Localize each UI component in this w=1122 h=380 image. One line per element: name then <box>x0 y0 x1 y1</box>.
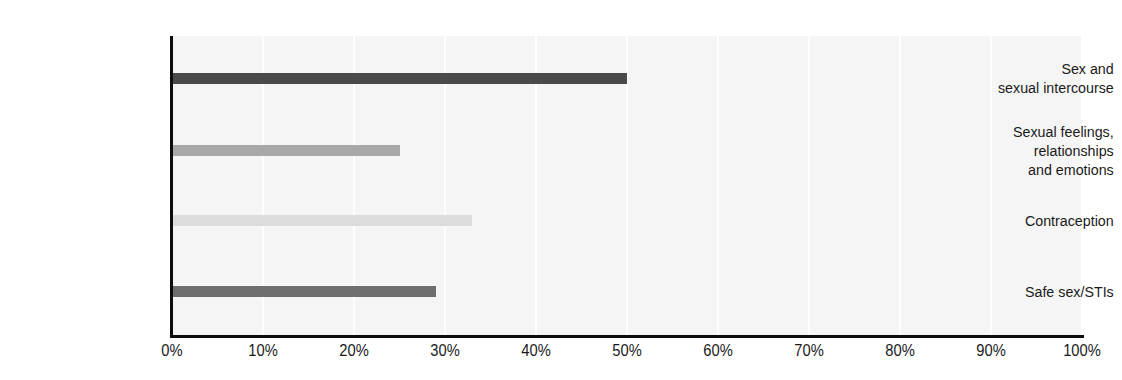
y-axis-label: Contraception <box>966 211 1122 230</box>
x-axis-tick-label: 70% <box>772 341 846 361</box>
x-axis-tick-label: 20% <box>317 341 391 361</box>
x-axis-tick-label: 100% <box>1045 341 1119 361</box>
x-axis-tick-label: 90% <box>954 341 1028 361</box>
y-axis-label: Sexual feelings, relationships and emoti… <box>966 122 1122 179</box>
x-axis-line <box>170 335 1084 338</box>
plot-area <box>172 36 1082 337</box>
x-axis-tick-label: 30% <box>408 341 482 361</box>
x-axis-tick-label: 0% <box>135 341 209 361</box>
x-axis-tick-label: 60% <box>681 341 755 361</box>
chart-title-clipped <box>0 0 1122 7</box>
y-axis-line <box>170 36 173 337</box>
bar <box>172 215 472 226</box>
x-axis-tick-label: 50% <box>590 341 664 361</box>
gridline-80% <box>899 36 901 337</box>
x-axis-tick-label: 40% <box>499 341 573 361</box>
x-axis-tick-label: 80% <box>863 341 937 361</box>
gridline-60% <box>717 36 719 337</box>
gridline-70% <box>808 36 810 337</box>
bar-chart: Sex and sexual intercourseSexual feeling… <box>0 0 1122 380</box>
y-axis-label: Sex and sexual intercourse <box>966 59 1122 97</box>
bar <box>172 286 436 297</box>
x-axis-tick-label: 10% <box>226 341 300 361</box>
bar <box>172 145 400 156</box>
bar <box>172 73 627 84</box>
y-axis-label: Safe sex/STIs <box>966 282 1122 301</box>
